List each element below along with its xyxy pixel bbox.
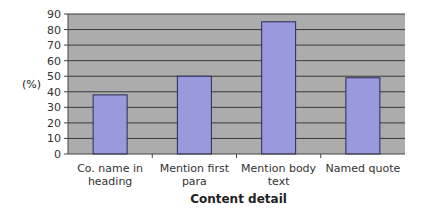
x-tick-label-line: Mention first: [160, 162, 230, 175]
y-tick-label: 80: [47, 24, 61, 37]
x-tick-label: Mention firstpara: [160, 162, 230, 188]
x-axis-label: Content detail: [190, 192, 287, 206]
bar-chart: 0102030405060708090 Co. name inheadingMe…: [0, 0, 425, 215]
y-tick-label: 0: [54, 148, 61, 161]
x-tick-label-line: Named quote: [326, 162, 401, 175]
y-tick-label: 10: [47, 132, 61, 145]
x-tick-label-line: text: [268, 175, 290, 188]
y-tick-label: 30: [47, 101, 61, 114]
x-tick-label-line: heading: [88, 175, 132, 188]
y-tick-label: 40: [47, 86, 61, 99]
x-axis-ticks: Co. name inheadingMention firstparaMenti…: [77, 154, 400, 188]
y-tick-label: 20: [47, 117, 61, 130]
bar: [346, 78, 380, 154]
x-tick-label: Co. name inheading: [77, 162, 143, 188]
bar: [93, 95, 127, 154]
y-tick-label: 50: [47, 70, 61, 83]
y-axis-label: (%): [22, 78, 41, 91]
x-tick-label: Named quote: [326, 162, 401, 175]
x-tick-label-line: para: [182, 175, 207, 188]
x-tick-label: Mention bodytext: [241, 162, 316, 188]
bar: [177, 76, 211, 154]
y-tick-label: 70: [47, 39, 61, 52]
x-tick-label-line: Co. name in: [77, 162, 143, 175]
bar: [262, 22, 296, 154]
x-tick-label-line: Mention body: [241, 162, 316, 175]
y-tick-label: 90: [47, 8, 61, 21]
y-tick-label: 60: [47, 55, 61, 68]
